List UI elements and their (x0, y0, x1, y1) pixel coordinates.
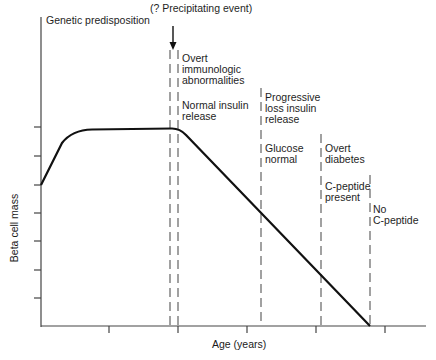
label-normal-insulin-2: release (182, 110, 216, 123)
arrow-down-icon (170, 26, 177, 50)
y-axis-label: Beta cell mass (8, 194, 20, 262)
label-genetic-predisposition: Genetic predisposition (46, 14, 150, 27)
label-precipitating-event: (? Precipitating event) (150, 2, 252, 15)
label-glucose-2: normal (265, 153, 297, 166)
label-overt-diabetes-2: diabetes (325, 153, 365, 166)
label-progressive-3: release (265, 113, 299, 126)
label-no-cpeptide-2: C-peptide (373, 214, 419, 227)
y-ticks (34, 127, 41, 298)
label-cpeptide-2: present (325, 191, 360, 204)
x-axis-label: Age (years) (212, 338, 266, 350)
x-ticks (109, 326, 385, 333)
label-overt-immuno-3: abnormalities (182, 74, 244, 87)
